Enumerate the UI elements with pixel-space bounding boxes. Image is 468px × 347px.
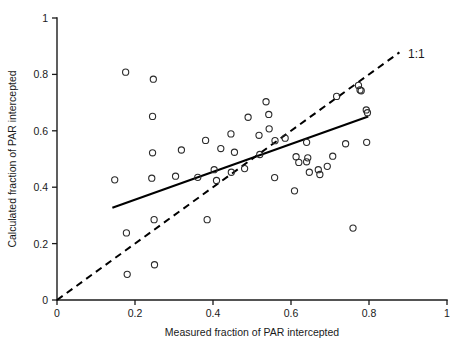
data-point [124,271,130,277]
y-axis-title: Calculated fraction of PAR intercepted [6,70,18,247]
data-point [178,147,184,153]
data-point [172,173,178,179]
data-point [266,126,272,132]
data-point [150,76,156,82]
data-point [304,139,310,145]
data-point [305,155,311,161]
data-point [324,163,330,169]
data-point [149,150,155,156]
data-point [228,131,234,137]
data-point [112,177,118,183]
x-tick-label: 0 [54,307,60,319]
data-point [266,111,272,117]
data-point [272,175,278,181]
data-point [330,153,336,159]
data-point [304,159,310,165]
x-tick-label: 0.4 [206,307,221,319]
data-point [149,113,155,119]
data-point [213,177,219,183]
data-point [241,165,247,171]
data-point [123,69,129,75]
data-point [256,132,262,138]
data-point [343,141,349,147]
data-point [334,93,340,99]
y-tick-label: 0.8 [33,68,48,80]
data-point [306,169,312,175]
y-tick-label: 0 [42,294,48,306]
y-tick-label: 0.6 [33,125,48,137]
data-point [151,217,157,223]
regression-fit-line [112,116,368,207]
annotation-1to1-label: 1:1 [408,47,425,61]
x-tick-label: 1 [444,307,450,319]
x-tick-label: 0.2 [128,307,143,319]
data-point [350,225,356,231]
data-point [231,149,237,155]
data-point [149,175,155,181]
data-point [245,114,251,120]
chart-figure: 00.20.40.60.81 00.20.40.60.81 1:1 Measur… [0,0,468,347]
data-point [296,159,302,165]
x-axis-ticks: 00.20.40.60.81 [54,300,450,319]
y-tick-label: 1 [42,12,48,24]
data-point [364,139,370,145]
y-tick-label: 0.2 [33,238,48,250]
y-tick-label: 0.4 [33,181,48,193]
x-tick-label: 0.6 [284,307,299,319]
data-point [202,137,208,143]
data-point [204,217,210,223]
data-point [263,99,269,105]
x-axis-title: Measured fraction of PAR intercepted [165,326,339,338]
scatter-plot-svg: 00.20.40.60.81 00.20.40.60.81 1:1 Measur… [0,0,468,347]
data-point [218,145,224,151]
data-point [123,230,129,236]
data-point [151,262,157,268]
y-axis-ticks: 00.20.40.60.81 [33,12,57,306]
data-point [291,188,297,194]
x-tick-label: 0.8 [362,307,377,319]
reference-line-1to1 [57,52,399,300]
